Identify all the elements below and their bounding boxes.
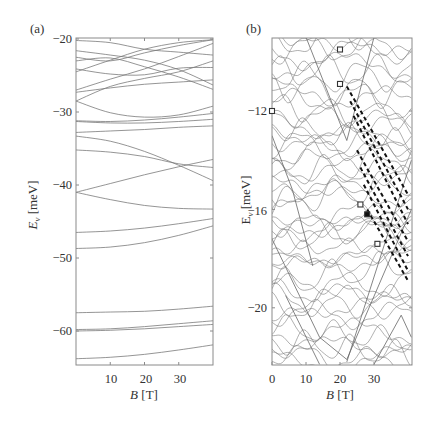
- panel-a-x-tick-labels: 10 20 30: [105, 372, 187, 386]
- panel-b-x-tick-labels: 0 10 20 30: [269, 372, 380, 386]
- energy-level-line: [272, 95, 411, 131]
- panel-a-frame: [76, 38, 213, 365]
- energy-level-line: [76, 101, 213, 117]
- energy-level-line: [306, 37, 374, 140]
- b-xtick: 0: [269, 372, 275, 386]
- a-ytick: −60: [52, 324, 72, 338]
- open-square-marker: [270, 109, 275, 114]
- filled-square-marker: [365, 212, 370, 217]
- energy-level-line: [272, 149, 411, 184]
- energy-level-line: [272, 299, 411, 329]
- energy-level-line: [76, 324, 213, 331]
- energy-level-line: [76, 219, 213, 233]
- energy-level-line: [272, 54, 411, 85]
- a-ytick: −40: [52, 178, 72, 192]
- energy-level-line: [272, 283, 411, 319]
- figure: (a) (b) −20 −30 −40 −50 −60 10 20 30 B […: [0, 0, 433, 425]
- panel-a-energy-levels: [76, 40, 213, 359]
- energy-level-line: [76, 126, 213, 133]
- panel-a-y-axis-label: Eν [meV]: [25, 180, 42, 230]
- energy-level-line: [272, 346, 411, 374]
- energy-level-line: [272, 199, 411, 233]
- open-square-marker: [338, 81, 343, 86]
- panel-a-x-axis-label: B [T]: [130, 387, 158, 402]
- panel-a-label: (a): [30, 21, 44, 36]
- a-ytick: −50: [52, 251, 72, 265]
- energy-level-line: [272, 180, 411, 219]
- panel-b-x-axis-label: B [T]: [326, 387, 354, 402]
- panel-b-label: (b): [246, 21, 261, 36]
- energy-level-line: [76, 306, 213, 313]
- b-ytick: −20: [247, 301, 267, 315]
- a-ytick: −30: [52, 105, 72, 119]
- a-ytick: −20: [52, 32, 72, 46]
- energy-level-line: [76, 150, 213, 168]
- energy-level-line: [76, 345, 213, 359]
- energy-level-line: [76, 136, 213, 181]
- open-square-marker: [338, 47, 343, 52]
- energy-level-line: [272, 330, 411, 367]
- panel-b-plot: −12 −16 −20 0 10 20 30 B [T] Eν [meV]: [238, 19, 412, 403]
- b-ytick: −12: [247, 104, 267, 118]
- energy-level-line: [286, 296, 320, 365]
- panel-a-y-tick-labels: −20 −30 −40 −50 −60: [52, 32, 72, 338]
- b-xtick: 30: [368, 372, 381, 386]
- dashed-level-line: [347, 86, 408, 194]
- dashed-level-line: [350, 101, 408, 209]
- energy-level-line: [76, 321, 213, 330]
- energy-level-line: [272, 250, 411, 269]
- energy-level-line: [272, 107, 411, 134]
- energy-level-line: [76, 226, 213, 249]
- panel-a-ticks: [76, 38, 213, 365]
- energy-level-line: [76, 192, 213, 209]
- a-xtick: 20: [140, 372, 153, 386]
- energy-level-line: [272, 165, 411, 199]
- open-square-marker: [375, 241, 380, 246]
- panel-a-plot: −20 −30 −40 −50 −60 10 20 30 B [T] Eν [m…: [25, 32, 213, 402]
- panel-b-dashed-lines: [347, 86, 408, 280]
- energy-level-line: [272, 345, 411, 375]
- a-xtick: 10: [105, 372, 118, 386]
- energy-level-line: [76, 40, 213, 61]
- energy-level-line: [272, 240, 411, 272]
- b-xtick: 20: [334, 372, 347, 386]
- energy-level-line: [76, 159, 213, 192]
- panel-b-energy-levels: [272, 19, 411, 375]
- a-xtick: 30: [174, 372, 187, 386]
- energy-level-line: [272, 38, 411, 71]
- open-square-marker: [358, 202, 363, 207]
- panel-b-y-axis-label: Eν [meV]: [238, 175, 255, 224]
- b-xtick: 10: [300, 372, 313, 386]
